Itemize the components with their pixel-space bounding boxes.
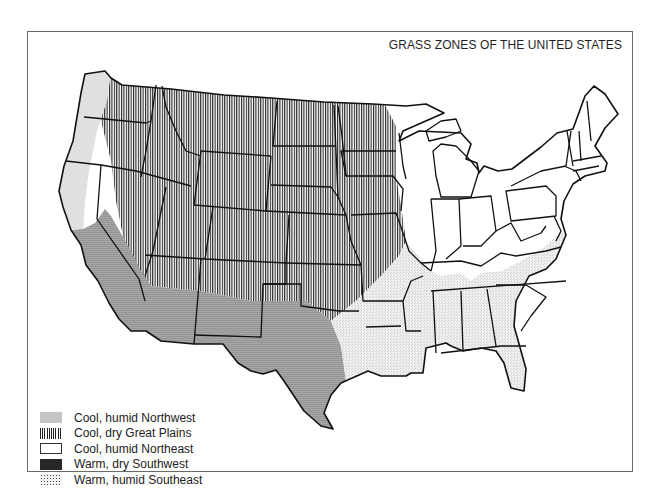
vertical-lines-swatch-icon	[40, 428, 62, 439]
legend-label: Warm, humid Southeast	[74, 473, 202, 487]
legend-label: Cool, humid Northwest	[74, 411, 195, 425]
map-legend: Cool, humid Northwest Cool, dry Great Pl…	[40, 410, 202, 488]
map-frame: GRASS ZONES OF THE UNITED STATES	[27, 31, 633, 472]
legend-item-cool-humid-northeast: Cool, humid Northeast	[40, 441, 202, 457]
us-grass-zones-map	[28, 32, 634, 473]
legend-label: Warm, dry Southwest	[74, 457, 188, 471]
legend-item-cool-dry-great-plains: Cool, dry Great Plains	[40, 426, 202, 442]
dense-dots-swatch-icon	[40, 459, 62, 470]
sparse-stipple-swatch-icon	[40, 474, 62, 485]
zone-fills	[28, 32, 634, 473]
legend-item-cool-humid-northwest: Cool, humid Northwest	[40, 410, 202, 426]
legend-item-warm-humid-southeast: Warm, humid Southeast	[40, 472, 202, 488]
legend-label: Cool, humid Northeast	[74, 442, 193, 456]
legend-label: Cool, dry Great Plains	[74, 426, 191, 440]
legend-item-warm-dry-southwest: Warm, dry Southwest	[40, 457, 202, 473]
fine-dots-swatch-icon	[40, 412, 62, 423]
blank-swatch-icon	[40, 443, 62, 454]
